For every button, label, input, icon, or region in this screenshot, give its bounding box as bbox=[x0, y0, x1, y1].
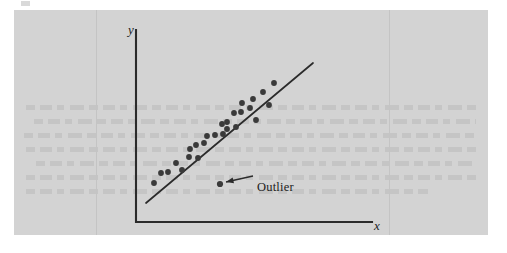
outlier-point bbox=[217, 181, 223, 187]
outlier-annotation-label: Outlier bbox=[257, 180, 294, 195]
y-axis-label: y bbox=[128, 23, 134, 36]
figure-root: y x Outlier bbox=[0, 0, 507, 253]
scan-artifact bbox=[21, 1, 30, 6]
plot-axes bbox=[136, 30, 372, 222]
annotation-arrow bbox=[226, 176, 253, 183]
figure-panel: y x Outlier bbox=[14, 10, 488, 235]
data-points bbox=[151, 80, 277, 186]
scatter-plot bbox=[14, 10, 488, 235]
x-axis-label: x bbox=[374, 219, 380, 232]
